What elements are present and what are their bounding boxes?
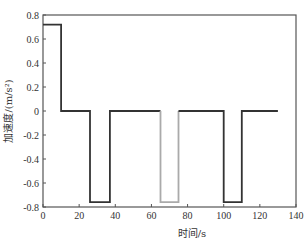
- x-axis-label: 时间/s: [178, 227, 207, 239]
- series-line-1: [161, 111, 179, 202]
- acceleration-chart: 0204060801001201400.80.60.40.20-0.2-0.4-…: [0, 0, 306, 243]
- y-tick-label: 0.8: [27, 10, 40, 21]
- y-tick-label: 0.4: [27, 58, 40, 69]
- x-tick-label: 40: [110, 210, 120, 221]
- x-tick-label: 60: [146, 210, 156, 221]
- y-axis-label: 加速度/(m/s²): [2, 79, 14, 142]
- series-layer: [43, 25, 278, 203]
- y-tick-label: 0.6: [27, 34, 40, 45]
- x-tick-label: 100: [216, 210, 231, 221]
- y-tick-label: 0: [34, 106, 39, 117]
- x-tick-label: 20: [74, 210, 84, 221]
- y-tick-label: -0.6: [23, 178, 39, 189]
- y-tick-label: -0.2: [23, 130, 39, 141]
- ticks-layer: 0204060801001201400.80.60.40.20-0.2-0.4-…: [23, 10, 303, 222]
- x-tick-label: 140: [289, 210, 304, 221]
- series-line-2: [179, 111, 278, 202]
- x-tick-label: 0: [41, 210, 46, 221]
- y-tick-label: -0.4: [23, 154, 39, 165]
- y-tick-label: -0.8: [23, 202, 39, 213]
- series-line-0: [43, 25, 161, 203]
- x-tick-label: 80: [183, 210, 193, 221]
- y-tick-label: 0.2: [27, 82, 40, 93]
- x-tick-label: 120: [252, 210, 267, 221]
